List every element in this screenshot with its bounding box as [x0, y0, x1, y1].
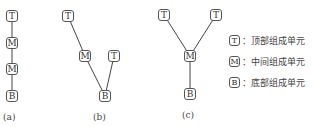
legend-text-top: ：顶部组成单元 [242, 34, 305, 47]
top-unit-node: T [158, 9, 170, 21]
legend-item-top: T ：顶部组成单元 [229, 34, 305, 47]
hierarchy-diagram-figure: TMMBTMTBTTMB T ：顶部组成单元 M ：中间组成单元 B ：底部组成… [0, 0, 315, 127]
top-unit-node: T [6, 10, 18, 22]
legend-item-bottom: B ：底部组成单元 [229, 76, 305, 89]
top-unit-node: T [108, 50, 120, 62]
legend-item-middle: M ：中间组成单元 [229, 55, 305, 68]
subfigure-caption: (a) [3, 112, 15, 122]
legend-symbol-b: B [229, 77, 240, 88]
middle-unit-node: M [184, 50, 196, 62]
legend-text-middle: ：中间组成单元 [242, 55, 305, 68]
top-unit-node: T [210, 9, 222, 21]
subfigure-caption: (b) [93, 112, 106, 122]
subfigure-caption: (c) [182, 110, 194, 120]
bottom-unit-node: B [99, 90, 111, 102]
bottom-unit-node: B [184, 88, 196, 100]
legend-symbol-m: M [229, 56, 240, 67]
top-unit-node: T [62, 10, 74, 22]
middle-unit-node: M [6, 37, 18, 49]
legend-text-bottom: ：底部组成单元 [242, 76, 305, 89]
middle-unit-node: M [6, 63, 18, 75]
middle-unit-node: M [79, 50, 91, 62]
legend-symbol-t: T [229, 35, 240, 46]
bottom-unit-node: B [6, 90, 18, 102]
